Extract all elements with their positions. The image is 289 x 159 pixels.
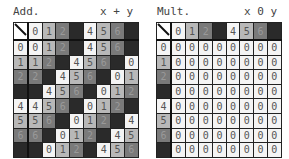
row-header: 0 (14, 40, 29, 55)
table-cell: 0 (254, 84, 268, 99)
table-cell: 0 (240, 99, 254, 114)
table-cell: 0 (199, 55, 213, 70)
row-header: 1 (14, 55, 29, 70)
table-row: 600000000 (157, 128, 282, 143)
table-cell: 1 (70, 128, 84, 143)
table-cell: 0 (267, 99, 281, 114)
table-cell: 0 (171, 143, 185, 158)
row-header: 3 (157, 84, 172, 99)
column-header: 7 (124, 23, 138, 41)
table-cell: 2 (124, 84, 138, 99)
table-cell: 1 (111, 84, 125, 99)
table-cell: 0 (213, 99, 227, 114)
column-header: 6 (254, 23, 268, 41)
row-header: 1 (157, 55, 172, 70)
table-cell: 0 (213, 70, 227, 85)
multiplication-table: 0123456700000000010000000020000000030000… (156, 22, 282, 158)
table-cell: 0 (28, 40, 42, 55)
table-cell: 0 (171, 70, 185, 85)
table-cell: 4 (111, 128, 125, 143)
table-cell: 0 (199, 84, 213, 99)
table-cell: 0 (199, 70, 213, 85)
table-cell: 0 (111, 70, 125, 85)
table-cell: 0 (267, 55, 281, 70)
row-header: 2 (157, 70, 172, 85)
table-cell: 6 (56, 99, 70, 114)
table-cell: 5 (56, 84, 70, 99)
header-row: 01234567 (157, 23, 282, 41)
table-cell: 6 (28, 128, 42, 143)
table-row: 000000000 (157, 40, 282, 55)
add-table-title: Add. (13, 5, 40, 18)
table-cell: 3 (56, 55, 70, 70)
table-cell: 0 (171, 84, 185, 99)
column-header: 3 (70, 23, 84, 41)
table-cell: 0 (185, 143, 199, 158)
table-row: 556701234 (14, 113, 139, 128)
table-cell: 6 (42, 113, 56, 128)
table-cell: 7 (124, 40, 138, 55)
add-operator-label: x + y (100, 5, 133, 18)
column-header: 0 (28, 23, 42, 41)
table-cell: 4 (42, 84, 56, 99)
table-cell: 0 (185, 70, 199, 85)
table-row: 500000000 (157, 113, 282, 128)
table-cell: 3 (83, 143, 97, 158)
table-cell: 0 (226, 113, 240, 128)
corner-cell (14, 23, 29, 41)
column-header: 1 (42, 23, 56, 41)
table-cell: 0 (226, 55, 240, 70)
table-cell: 7 (28, 143, 42, 158)
table-cell: 0 (226, 128, 240, 143)
table-cell: 0 (267, 84, 281, 99)
header-row: 01234567 (14, 23, 139, 41)
row-header: 5 (157, 113, 172, 128)
table-row: 770123456 (14, 143, 139, 158)
table-cell: 0 (213, 128, 227, 143)
table-cell: 3 (42, 70, 56, 85)
table-row: 445670123 (14, 99, 139, 114)
table-cell: 7 (83, 84, 97, 99)
table-cell: 0 (213, 84, 227, 99)
table-cell: 0 (226, 99, 240, 114)
table-cell: 4 (83, 40, 97, 55)
table-cell: 4 (124, 113, 138, 128)
table-row: 400000000 (157, 99, 282, 114)
table-cell: 5 (83, 55, 97, 70)
table-cell: 0 (240, 84, 254, 99)
addition-table: 0123456700123456711234567022345670133456… (13, 22, 139, 158)
table-cell: 1 (28, 55, 42, 70)
table-cell: 0 (267, 113, 281, 128)
table-cell: 0 (226, 84, 240, 99)
column-header: 7 (267, 23, 281, 41)
corner-cell (157, 23, 172, 41)
table-cell: 2 (28, 70, 42, 85)
row-header: 0 (157, 40, 172, 55)
column-header: 6 (111, 23, 125, 41)
diagonal-slash-icon (157, 23, 170, 36)
table-cell: 0 (226, 40, 240, 55)
row-header: 7 (157, 143, 172, 158)
column-header: 0 (171, 23, 185, 41)
table-cell: 0 (199, 99, 213, 114)
table-cell: 0 (171, 113, 185, 128)
table-row: 667012345 (14, 128, 139, 143)
table-cell: 0 (42, 143, 56, 158)
table-cell: 0 (254, 40, 268, 55)
table-cell: 0 (70, 113, 84, 128)
column-header: 5 (240, 23, 254, 41)
row-header: 2 (14, 70, 29, 85)
table-row: 223456701 (14, 70, 139, 85)
table-cell: 0 (213, 113, 227, 128)
table-cell: 0 (171, 55, 185, 70)
table-cell: 5 (124, 128, 138, 143)
table-cell: 0 (254, 143, 268, 158)
table-cell: 0 (213, 55, 227, 70)
table-cell: 0 (56, 128, 70, 143)
table-cell: 3 (28, 84, 42, 99)
table-cell: 0 (83, 99, 97, 114)
table-cell: 0 (240, 113, 254, 128)
table-cell: 0 (213, 40, 227, 55)
column-header: 4 (226, 23, 240, 41)
table-cell: 4 (70, 55, 84, 70)
